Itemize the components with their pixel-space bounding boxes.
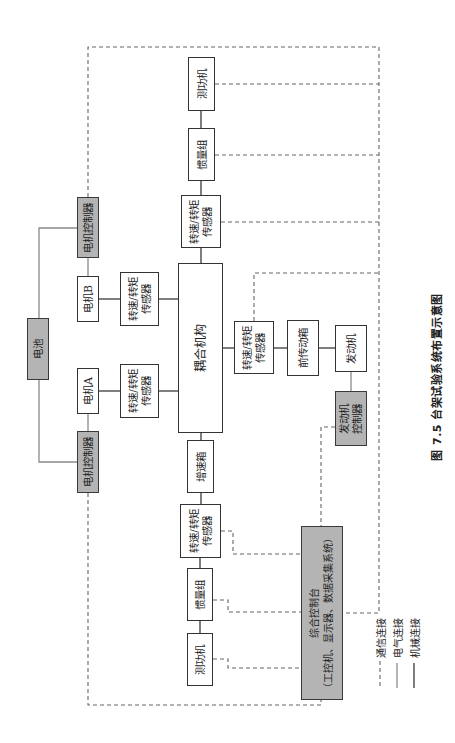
gearbox-label: 增速箱 [194,452,207,482]
control-console-label: 综合控制台 （工控机、显示器、数据采集系统） [308,533,336,693]
sensor-bottom-line2: 传感器 [201,509,214,553]
sensor-b-label: 转速/转矩 传感器 [127,277,153,321]
dyno-top-label: 测功机 [195,69,208,99]
control-console-subtitle: （工控机、显示器、数据采集系统） [322,533,336,693]
sensor-a-line2: 传感器 [140,369,153,413]
control-console-title: 综合控制台 [308,533,322,693]
inertia-bottom-box: 惯量组 [187,568,213,621]
motor-a-box: 电机A [77,368,99,414]
engine-box: 发动机 [335,325,367,372]
inertia-top-label: 惯量组 [195,140,208,170]
front-transmission-label: 前传动箱 [297,328,310,368]
sensor-a-box: 转速/转矩 传感器 [120,364,159,418]
sensor-right-box: 转速/转矩 传感器 [234,321,274,374]
sensor-b-line2: 传感器 [140,277,153,321]
sensor-right-line1: 转速/转矩 [241,326,254,370]
sensor-top-box: 转速/转矩 传感器 [181,195,221,248]
battery-label: 电池 [32,339,45,359]
dyno-top-box: 测功机 [188,57,215,111]
motor-b-label: 电机B [82,285,95,313]
motor-controller-bottom-box: 电机控制器 [77,431,99,493]
comm-inertia-bottom [213,600,301,612]
motor-b-box: 电机B [77,276,99,322]
comm-sensor-bottom [221,531,301,554]
sensor-b-box: 转速/转矩 传感器 [120,272,159,326]
figure-caption: 图 7.5 台架试验系统布置示意图 [428,293,444,461]
sensor-a-line1: 转速/转矩 [127,369,140,413]
sensor-a-label: 转速/转矩 传感器 [127,369,153,413]
comm-dyno-bottom [213,659,301,668]
legend-lines [380,661,414,688]
dyno-bottom-label: 测功机 [194,645,207,675]
comm-sensor-right [254,273,379,321]
sensor-bottom-label: 转速/转矩 传感器 [188,509,214,553]
legend-mechanical-label: 机械连接 [407,618,422,658]
sensor-right-label: 转速/转矩 传感器 [241,326,267,370]
engine-label: 发动机 [345,334,358,364]
battery-box: 电池 [27,318,49,380]
gearbox-box: 增速箱 [187,440,214,493]
motor-a-label: 电机A [82,377,95,405]
legend-communication-label: 通信连接 [373,618,388,658]
comm-engine-controller [321,427,335,526]
link-controller-top-battery [39,228,77,318]
motor-controller-top-box: 电机控制器 [77,197,99,258]
sensor-top-line1: 转速/转矩 [188,200,201,244]
control-console-box: 综合控制台 （工控机、显示器、数据采集系统） [301,526,343,700]
inertia-top-box: 惯量组 [188,128,215,181]
coupling-mechanism-label: 耦合机构 [194,324,207,372]
sensor-right-line2: 传感器 [254,326,267,370]
engine-controller-box: 发动机 控制器 [335,391,367,446]
dyno-bottom-box: 测功机 [187,633,213,686]
sensor-b-line1: 转速/转矩 [127,277,140,321]
sensor-bottom-box: 转速/转矩 传感器 [180,504,221,558]
inertia-bottom-label: 惯量组 [194,580,207,610]
engine-controller-line1: 发动机 [338,404,351,434]
legend-electrical-label: 电气连接 [390,618,405,658]
engine-controller-line2: 控制器 [351,404,364,434]
sensor-top-label: 转速/转矩 传感器 [188,200,214,244]
engine-controller-label: 发动机 控制器 [338,404,364,434]
sensor-bottom-line1: 转速/转矩 [188,509,201,553]
motor-controller-bottom-label: 电机控制器 [82,437,95,487]
link-battery-controller-bottom [39,380,77,462]
motor-controller-top-label: 电机控制器 [82,203,95,253]
front-transmission-box: 前传动箱 [287,320,319,376]
coupling-mechanism-box: 耦合机构 [178,263,223,433]
sensor-top-line2: 传感器 [201,200,214,244]
